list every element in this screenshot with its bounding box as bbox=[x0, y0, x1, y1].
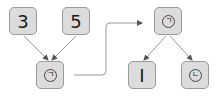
node-label: 5 bbox=[70, 11, 81, 32]
node-5: 5 bbox=[62, 7, 90, 35]
node-label: 3 bbox=[17, 11, 28, 32]
edge-3-to-root bbox=[24, 36, 48, 60]
node-left-root: ㄱ bbox=[36, 61, 64, 89]
circled-hangul-giyeok-icon: ㄱ bbox=[44, 69, 57, 82]
circled-hangul-giyeok-icon: ㄱ bbox=[162, 15, 175, 28]
node-right-root: ㄱ bbox=[154, 7, 182, 35]
edge-root-to-i bbox=[144, 36, 166, 60]
edge-root-to-right bbox=[170, 36, 192, 60]
node-label: I bbox=[139, 65, 144, 86]
circled-hangul-nieun-icon: ㄴ bbox=[189, 69, 202, 82]
edge-5-to-root bbox=[52, 36, 76, 60]
node-right-child: ㄴ bbox=[181, 61, 209, 89]
node-3: 3 bbox=[9, 7, 37, 35]
node-i: I bbox=[128, 61, 156, 89]
